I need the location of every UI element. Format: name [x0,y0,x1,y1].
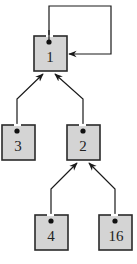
edge-3-to-1 [17,74,43,131]
node-label: 3 [14,138,22,154]
node-label: 16 [109,228,125,244]
node-1: 1 [34,30,67,71]
pointer-dot-icon [46,39,51,44]
node-3: 3 [2,125,35,160]
node-16: 16 [99,215,132,250]
pointer-dot-icon [14,128,19,133]
edge-16-to-2 [89,163,115,221]
pointer-dot-icon [80,128,85,133]
node-label: 1 [46,49,54,65]
edge-4-to-2 [51,163,77,221]
node-4: 4 [35,215,68,250]
edge-2-to-1 [55,74,83,131]
pointer-dot-icon [112,218,117,223]
node-label: 4 [47,228,55,244]
union-find-diagram: 1 3 2 4 16 [0,0,137,264]
node-2: 2 [67,125,100,160]
pointer-dot-icon [48,218,53,223]
node-label: 2 [79,138,87,154]
